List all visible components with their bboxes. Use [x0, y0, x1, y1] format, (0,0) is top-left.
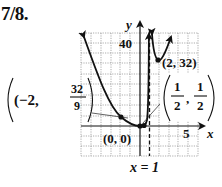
svg-text:1: 1	[174, 79, 181, 94]
point-half-half	[141, 123, 146, 128]
y-axis-label: y	[124, 17, 132, 32]
svg-text:9: 9	[74, 99, 80, 113]
label-neg2-32-9: (−2, 32 9	[8, 78, 93, 122]
asymptote-label: x = 1	[129, 160, 159, 175]
point-neg2-32-9	[118, 114, 123, 119]
label-half-half: 1 2 , 1 2	[160, 73, 218, 121]
x-axis-label: x	[206, 126, 214, 141]
label-origin: (0, 0)	[103, 131, 131, 146]
y-tick-40: 40	[119, 36, 132, 51]
svg-text:2: 2	[197, 98, 204, 113]
svg-text:1: 1	[197, 79, 204, 94]
x-tick-5: 5	[183, 126, 190, 141]
point-2-32	[155, 57, 160, 62]
graph: y 40 5 x x = 1 (0, 0) (2, 32) (−2, 32 9 …	[0, 0, 222, 187]
svg-text:32: 32	[71, 82, 83, 96]
svg-text:2: 2	[174, 98, 181, 113]
label-2-32: (2, 32)	[162, 55, 197, 70]
curve-left-branch	[84, 34, 149, 126]
svg-text:,: ,	[186, 91, 189, 106]
svg-text:(−2,: (−2,	[14, 92, 39, 109]
